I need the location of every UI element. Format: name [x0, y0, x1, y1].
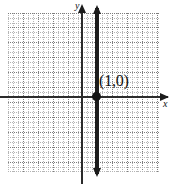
coordinate-plane-figure: (1,0) y x: [0, 0, 174, 185]
line-bottom-arrow-icon: [93, 168, 101, 177]
y-axis: [81, 6, 83, 184]
line-x-equals-1: [95, 8, 99, 174]
y-axis-label: y: [75, 1, 79, 11]
x-axis-label: x: [163, 99, 167, 109]
point-label: (1,0): [99, 71, 129, 90]
grid: [8, 13, 160, 172]
x-axis: [0, 96, 168, 98]
point-marker-1-0: [92, 92, 101, 101]
grid-horizontal-lines: [8, 13, 160, 172]
line-top-arrow-icon: [93, 5, 101, 14]
